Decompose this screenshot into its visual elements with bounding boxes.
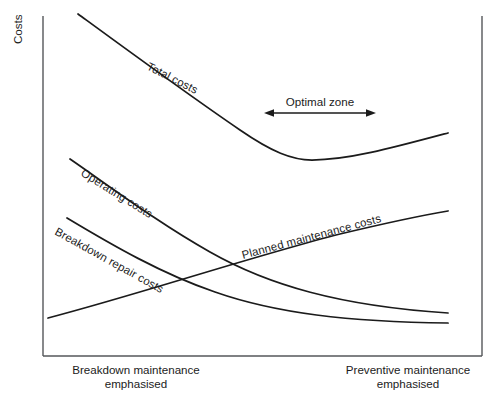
x-axis-left-label-line2: emphasised <box>105 377 168 390</box>
y-axis-title: Costs <box>11 14 24 44</box>
optimal-zone-arrow-head-right <box>366 109 376 117</box>
optimal-zone-label: Optimal zone <box>286 95 354 108</box>
x-axis-left-label-line1: Breakdown maintenance <box>72 363 200 376</box>
x-axis-right-label-line1: Preventive maintenance <box>346 363 470 376</box>
curve-label-total-costs: Total costs <box>145 60 200 96</box>
cost-tradeoff-figure: Costs Total costs Operating costs Breakd… <box>0 0 495 395</box>
curve-label-planned-maintenance-costs: Planned maintenance costs <box>240 212 382 261</box>
x-axis-right-label-line2: emphasised <box>377 377 440 390</box>
curve-total-costs <box>78 14 448 160</box>
curve-label-breakdown-repair-costs: Breakdown repair costs <box>53 225 166 295</box>
curve-operating-costs <box>70 159 448 313</box>
maintenance-cost-chart: Costs Total costs Operating costs Breakd… <box>0 0 495 395</box>
optimal-zone-arrow-head-left <box>264 109 274 117</box>
curve-label-operating-costs: Operating costs <box>79 167 155 221</box>
